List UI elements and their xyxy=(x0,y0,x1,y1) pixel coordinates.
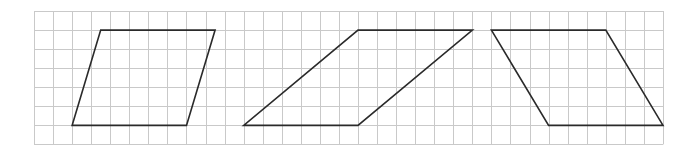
parallelogram-right xyxy=(491,30,663,125)
grid-paper-with-parallelograms xyxy=(0,0,695,154)
parallelogram-left xyxy=(72,30,215,125)
grid-diagram xyxy=(0,0,695,154)
shapes xyxy=(72,30,663,125)
grid-lines xyxy=(34,11,664,145)
